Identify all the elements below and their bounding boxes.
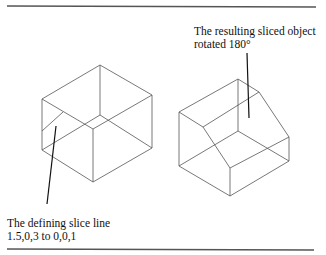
top-rule (7, 6, 316, 7)
slice-leader-line (47, 126, 56, 204)
result-label-line2: rotated 180° (194, 38, 316, 51)
original-cube-wireframe (42, 65, 152, 182)
slice-annotation: The defining slice line 1.5,0,3 to 0,0,1 (7, 217, 110, 243)
slice-label-line1: The defining slice line (7, 217, 110, 230)
slice-label-line2: 1.5,0,3 to 0,0,1 (7, 230, 110, 243)
sliced-object-wireframe (179, 79, 289, 196)
result-annotation: The resulting sliced object rotated 180° (194, 25, 316, 51)
slice-line (42, 112, 63, 131)
bottom-rule (7, 249, 314, 250)
result-label-line1: The resulting sliced object (194, 25, 316, 38)
